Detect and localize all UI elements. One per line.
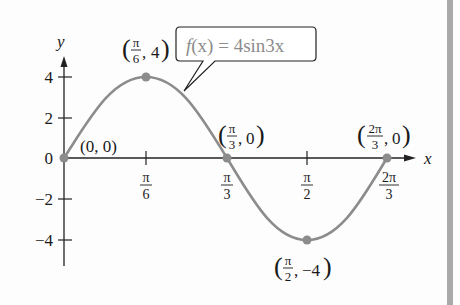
svg-text:0: 0 [392, 129, 401, 148]
label-peak: ( π 6 , 4 ) [122, 34, 170, 66]
point-origin [60, 154, 69, 163]
axes [64, 62, 408, 266]
svg-text:4: 4 [151, 43, 160, 62]
page-margin-rule [447, 0, 453, 305]
svg-text:(: ( [122, 34, 131, 63]
svg-text:f(x) = 4sin3x: f(x) = 4sin3x [186, 35, 285, 57]
svg-text:(: ( [274, 252, 283, 281]
point-trough [303, 236, 312, 245]
svg-text:2: 2 [304, 187, 311, 202]
svg-text:−2: −2 [35, 190, 53, 209]
label-trough: ( π 2 , −4 ) [274, 252, 332, 284]
svg-text:): ) [402, 120, 411, 149]
x-tick-labels: π 6 π 3 π 2 2π 3 [140, 170, 399, 202]
svg-text:(: ( [218, 120, 227, 149]
svg-text:2π: 2π [382, 170, 396, 185]
svg-text:3: 3 [224, 187, 231, 202]
svg-text:3: 3 [372, 137, 379, 152]
svg-text:): ) [161, 34, 170, 63]
svg-text:,: , [384, 129, 388, 148]
svg-text:−4: −4 [35, 231, 54, 250]
svg-text:3: 3 [386, 187, 393, 202]
svg-text:−4: −4 [302, 261, 321, 280]
svg-text:): ) [323, 252, 332, 281]
y-axis-arrow-icon [61, 56, 68, 67]
svg-text:2: 2 [285, 269, 292, 284]
svg-text:π: π [223, 170, 230, 185]
x-axis-label: x [423, 149, 432, 168]
svg-text:,: , [294, 261, 298, 280]
svg-text:,: , [142, 43, 146, 62]
svg-text:π: π [229, 121, 236, 136]
chart-svg: f(x) = 4sin3x y x 4 2 0 −2 −4 π 6 π 3 π … [0, 0, 460, 305]
svg-text:π: π [142, 170, 149, 185]
svg-text:): ) [256, 120, 265, 149]
chart-figure: f(x) = 4sin3x y x 4 2 0 −2 −4 π 6 π 3 π … [0, 0, 460, 305]
svg-text:6: 6 [133, 51, 140, 66]
svg-text:π: π [303, 170, 310, 185]
svg-text:0: 0 [45, 149, 54, 168]
svg-text:3: 3 [229, 137, 236, 152]
point-zero1 [223, 154, 232, 163]
point-zero2 [383, 154, 392, 163]
callout-rest: (x) = 4sin3x [191, 35, 285, 57]
y-tick-labels: 4 2 0 −2 −4 [35, 68, 54, 250]
point-peak [142, 73, 151, 82]
label-origin: (0, 0) [80, 137, 117, 156]
svg-text:π: π [285, 253, 292, 268]
svg-text:2: 2 [45, 109, 54, 128]
svg-text:π: π [133, 35, 140, 50]
label-zero2: ( 2π 3 , 0 ) [357, 120, 411, 152]
svg-text:4: 4 [45, 68, 54, 87]
function-callout: f(x) = 4sin3x [176, 27, 316, 91]
svg-text:0: 0 [246, 129, 255, 148]
svg-text:6: 6 [143, 187, 150, 202]
label-zero1: ( π 3 , 0 ) [218, 120, 265, 152]
x-axis-arrow-icon [404, 155, 416, 162]
svg-text:(: ( [357, 120, 366, 149]
y-axis-label: y [55, 32, 65, 51]
svg-text:2π: 2π [368, 121, 382, 136]
svg-text:,: , [238, 129, 242, 148]
